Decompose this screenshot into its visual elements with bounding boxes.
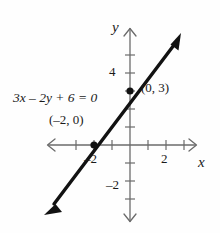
x-tick-label-2: 2 <box>161 152 168 165</box>
x-tick-label-neg2: –2 <box>84 152 97 165</box>
point-marker-x-intercept <box>90 141 97 148</box>
x-axis <box>48 139 197 151</box>
line-arrow-lower-left <box>44 204 62 215</box>
x-intercept-annotation: (–2, 0) <box>49 113 84 126</box>
equation-annotation: 3x – 2y + 6 = 0 <box>13 91 97 105</box>
y-tick-label-neg2: –2 <box>106 178 119 191</box>
coordinate-plane-figure: y x 4 –2 –2 2 3x – 2y + 6 = 0 (–2, 0) (0… <box>0 0 220 233</box>
x-axis-label: x <box>198 155 205 170</box>
y-axis-label: y <box>112 20 119 35</box>
graph-canvas <box>0 0 220 233</box>
y-axis <box>124 28 136 222</box>
y-tick-label-4: 4 <box>109 65 116 78</box>
y-intercept-annotation: (0, 3) <box>141 81 169 94</box>
point-marker-y-intercept <box>126 87 133 94</box>
